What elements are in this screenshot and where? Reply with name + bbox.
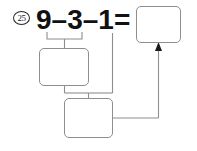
worksheet-canvas: 25 9–3–1= <box>0 0 197 151</box>
equation-operand-1: 9 <box>36 6 52 34</box>
equation-operator-2: – <box>83 6 99 34</box>
equation-operator-1: – <box>52 6 68 34</box>
problem-number-badge: 25 <box>13 11 30 25</box>
equation-equals-sign: = <box>114 6 130 34</box>
answer-box-first-step[interactable] <box>39 48 89 86</box>
arrowhead-icon <box>155 42 162 51</box>
answer-box-result[interactable] <box>136 6 181 43</box>
equation: 9–3–1= <box>36 6 130 34</box>
equation-operand-3: 1 <box>98 6 114 34</box>
answer-box-second-step[interactable] <box>64 98 113 138</box>
equation-operand-2: 3 <box>67 6 83 34</box>
